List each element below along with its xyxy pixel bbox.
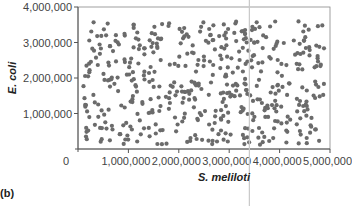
data-point bbox=[203, 109, 207, 113]
data-point bbox=[86, 129, 90, 133]
data-point bbox=[320, 23, 324, 27]
data-point bbox=[102, 27, 106, 31]
data-point bbox=[307, 53, 311, 57]
data-point bbox=[207, 122, 211, 126]
data-point bbox=[128, 61, 132, 65]
data-point bbox=[142, 77, 146, 81]
data-point bbox=[257, 78, 261, 82]
data-point bbox=[258, 143, 262, 147]
data-point bbox=[114, 59, 118, 63]
data-point bbox=[106, 22, 110, 26]
data-point bbox=[279, 105, 283, 109]
data-point bbox=[261, 46, 265, 50]
data-point bbox=[300, 67, 304, 71]
data-point bbox=[244, 88, 248, 92]
data-point bbox=[253, 27, 257, 31]
data-point bbox=[174, 129, 178, 133]
data-point bbox=[241, 29, 245, 33]
data-point bbox=[251, 99, 255, 103]
data-point bbox=[132, 77, 136, 81]
data-point bbox=[231, 84, 235, 88]
data-point bbox=[312, 94, 316, 98]
x-tick-label: 4,000,000 bbox=[253, 155, 302, 167]
data-point bbox=[201, 20, 205, 24]
data-point bbox=[173, 93, 177, 97]
data-point bbox=[211, 38, 215, 42]
data-point bbox=[260, 60, 264, 64]
data-point bbox=[142, 126, 146, 130]
data-point bbox=[100, 108, 104, 112]
data-point bbox=[259, 69, 263, 73]
data-point bbox=[157, 95, 161, 99]
data-point bbox=[125, 73, 129, 77]
data-point bbox=[199, 87, 203, 91]
data-point bbox=[284, 140, 288, 144]
data-point bbox=[231, 71, 235, 75]
data-point bbox=[149, 45, 153, 49]
data-point bbox=[252, 53, 256, 57]
data-point bbox=[164, 142, 168, 146]
data-point bbox=[137, 47, 141, 51]
data-point bbox=[168, 101, 172, 105]
data-point bbox=[211, 73, 215, 77]
data-point bbox=[173, 62, 177, 66]
data-point bbox=[255, 97, 259, 101]
data-point bbox=[142, 52, 146, 56]
data-point bbox=[123, 105, 127, 109]
data-point bbox=[295, 122, 299, 126]
data-point bbox=[168, 63, 172, 67]
data-point bbox=[89, 29, 93, 33]
data-point bbox=[196, 63, 200, 67]
data-point bbox=[187, 98, 191, 102]
data-point bbox=[287, 81, 291, 85]
x-axis: 01,000,0002,000,0003,000,0004,000,0005,0… bbox=[63, 149, 352, 167]
data-point bbox=[155, 142, 159, 146]
data-point bbox=[322, 46, 326, 50]
data-point bbox=[276, 83, 280, 87]
x-tick-label: 5,000,000 bbox=[303, 155, 352, 167]
data-point bbox=[98, 42, 102, 46]
data-point bbox=[276, 58, 280, 62]
data-point bbox=[87, 115, 91, 119]
data-point bbox=[85, 137, 89, 141]
data-point bbox=[307, 45, 311, 49]
data-point bbox=[195, 137, 199, 141]
data-point bbox=[267, 139, 271, 143]
x-tick-label: 1,000,000 bbox=[101, 155, 150, 167]
y-axis: 1,000,0002,000,0003,000,0004,000,000 bbox=[23, 1, 78, 152]
data-point bbox=[307, 28, 311, 32]
data-point bbox=[185, 32, 189, 36]
data-point bbox=[159, 58, 163, 62]
data-point bbox=[318, 64, 322, 68]
data-point bbox=[226, 120, 230, 124]
data-point bbox=[207, 27, 211, 31]
data-point bbox=[226, 27, 230, 31]
data-point bbox=[148, 38, 152, 42]
data-point bbox=[263, 108, 267, 112]
data-point bbox=[158, 104, 162, 108]
data-point bbox=[129, 57, 133, 61]
data-point bbox=[297, 103, 301, 107]
y-tick-label: 1,000,000 bbox=[23, 108, 72, 120]
data-point bbox=[143, 46, 147, 50]
data-point bbox=[108, 85, 112, 89]
data-point bbox=[164, 95, 168, 99]
data-point bbox=[88, 68, 92, 72]
data-point bbox=[89, 60, 93, 64]
data-point bbox=[256, 61, 260, 65]
data-point bbox=[182, 26, 186, 30]
data-point bbox=[173, 115, 177, 119]
data-point bbox=[250, 129, 254, 133]
data-point bbox=[92, 20, 96, 24]
x-axis-title: S. meliloti bbox=[198, 171, 251, 183]
data-point bbox=[273, 19, 277, 23]
data-point bbox=[293, 53, 297, 57]
data-point bbox=[305, 88, 309, 92]
data-point bbox=[245, 40, 249, 44]
data-point bbox=[101, 72, 105, 76]
y-tick-label: 2,000,000 bbox=[23, 72, 72, 84]
data-point bbox=[199, 25, 203, 29]
data-point bbox=[257, 126, 261, 130]
data-point bbox=[149, 65, 153, 69]
data-point bbox=[255, 40, 259, 44]
